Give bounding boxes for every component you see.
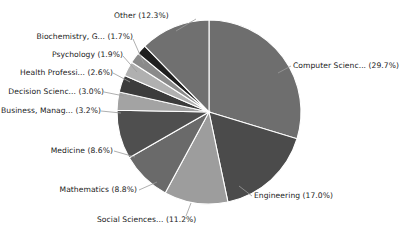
pie-label-business: Business, Manag... (3.2%) (1, 107, 101, 115)
pie-label-medicine: Medicine (8.6%) (51, 147, 113, 155)
pie-label-health-professions: Health Professi... (2.6%) (20, 69, 113, 77)
pie-label-decision-sciences: Decision Scienc... (3.0%) (8, 88, 104, 96)
pie-label-social-sciences: Social Sciences... (11.2%) (97, 216, 196, 224)
pie-slices-group (117, 20, 301, 204)
pie-label-mathematics: Mathematics (8.8%) (60, 186, 137, 194)
pie-label-engineering: Engineering (17.0%) (254, 192, 333, 200)
pie-label-computer-science: Computer Scienc... (29.7%) (293, 62, 399, 70)
pie-chart-figure: Computer Scienc... (29.7%) Engineering (… (0, 0, 410, 240)
pie-label-biochemistry: Biochemistry, G... (1.7%) (36, 33, 133, 41)
pie-label-psychology: Psychology (1.9%) (52, 51, 123, 59)
pie-label-other: Other (12.3%) (114, 12, 169, 20)
